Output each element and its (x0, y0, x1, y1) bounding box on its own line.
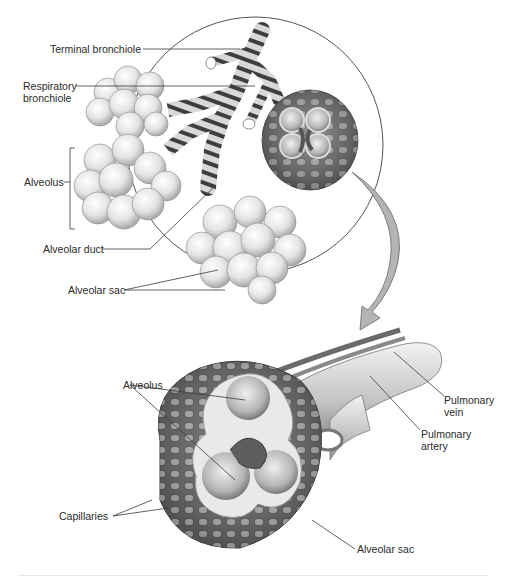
alveolar-sac-cutaway (158, 361, 321, 548)
label-alveolus-bottom: Alveolus (123, 379, 163, 391)
label-capillaries: Capillaries (59, 510, 108, 522)
label-pulmonary-vein: Pulmonary vein (444, 394, 494, 418)
label-respiratory-bronchiole: Respiratory bronchiole (23, 80, 77, 104)
label-alveolus-top: Alveolus (24, 176, 64, 188)
alveolar-cluster-lower (186, 196, 306, 304)
label-line: artery (421, 440, 471, 452)
alveolar-cluster-upper (86, 66, 168, 140)
label-terminal-bronchiole: Terminal bronchiole (50, 43, 141, 55)
label-pulmonary-artery: Pulmonary artery (421, 428, 471, 452)
label-alveolar-sac-top: Alveolar sac (68, 284, 125, 296)
label-line: Respiratory (23, 80, 77, 92)
label-line: Pulmonary (421, 428, 471, 440)
alveolar-cluster-left (74, 134, 181, 229)
label-alveolar-duct: Alveolar duct (43, 243, 104, 255)
label-line: bronchiole (23, 92, 77, 104)
cutaway-sac-small (262, 90, 358, 190)
label-line: Pulmonary (444, 394, 494, 406)
label-alveolar-sac-bottom: Alveolar sac (357, 543, 414, 555)
label-line: vein (444, 406, 494, 418)
bottom-divider (18, 575, 488, 576)
zoom-arrow (352, 172, 400, 330)
